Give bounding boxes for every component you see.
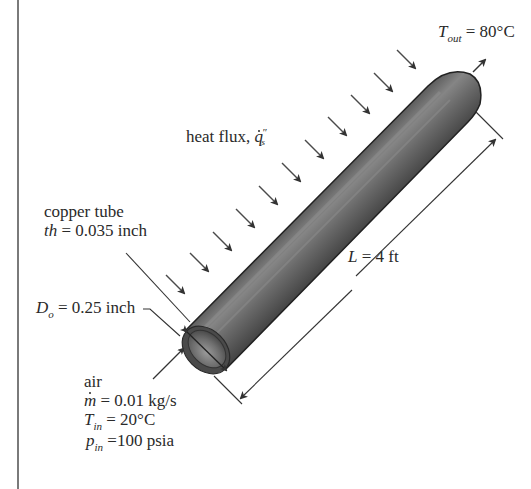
inlet-pressure-subscript: in [95,441,104,453]
tube-diagram [0,0,531,489]
heat-flux-label: heat flux, q″s [186,127,265,149]
inlet-pressure-value: =100 psia [103,431,174,450]
arrow-down-right-icon [397,50,415,68]
outlet-temp-subscript: out [447,32,461,44]
length-label: L = 4 ft [348,247,399,266]
extension-line-near [214,376,242,404]
copper-tube-title: copper tube [44,202,147,221]
arrow-down-right-icon [351,95,369,113]
inlet-temp-subscript: in [93,420,102,432]
mass-flow-value: = 0.01 kg/s [96,391,176,410]
arrow-down-right-icon [259,186,277,204]
arrow-down-right-icon [282,163,300,181]
arrow-down-right-icon [213,232,231,250]
heat-flux-subscript: s [262,137,266,147]
arrow-down-right-icon [305,140,323,158]
copper-tube [173,72,481,384]
thickness-symbol: th [44,221,57,240]
arrow-down-right-icon [190,253,208,271]
length-value: = 4 ft [357,247,398,266]
arrow-down-right-icon [236,209,254,227]
arrow-down-right-icon [374,73,392,91]
diameter-subscript: o [48,308,54,320]
thickness-line: th = 0.035 inch [44,221,147,240]
inlet-pressure-line: pin =100 psia [84,431,177,452]
thickness-value: = 0.035 inch [57,221,147,240]
diameter-leader-line [143,309,180,336]
inlet-pressure-symbol: p [86,431,95,450]
mass-flow-line: m = 0.01 kg/s [84,391,177,410]
outlet-temperature-label: Tout = 80°C [438,22,515,43]
heat-flux-text: heat flux, [186,127,254,146]
outer-diameter-label: Do = 0.25 inch [36,298,135,319]
diameter-value: = 0.25 inch [54,298,135,317]
thickness-leader-line [126,253,190,322]
copper-tube-label: copper tube th = 0.035 inch [44,202,147,240]
air-inlet-conditions: air m = 0.01 kg/s Tin = 20°C pin =100 ps… [84,372,177,452]
extension-line-far [476,112,503,139]
inlet-temp-value: = 20°C [102,410,155,429]
mass-flow-symbol: m [84,391,96,410]
outlet-flow-arrow-icon [473,60,485,72]
arrow-down-right-icon [328,117,346,135]
inlet-temp-line: Tin = 20°C [84,410,177,431]
diameter-symbol: D [36,298,48,317]
air-title: air [84,372,177,391]
outlet-temp-value: = 80°C [466,22,515,41]
arrow-down-right-icon [166,275,184,293]
